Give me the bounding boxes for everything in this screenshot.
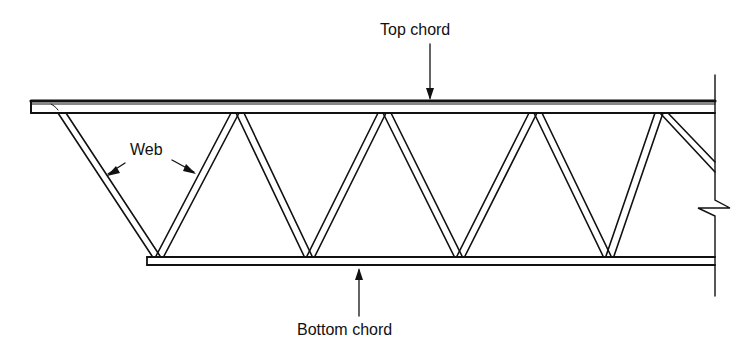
web-members — [58, 113, 715, 256]
truss-diagram — [0, 0, 750, 356]
top-chord — [31, 101, 715, 113]
top-chord-label: Top chord — [380, 22, 450, 38]
web-right-arrowhead-icon — [183, 164, 196, 174]
web-label: Web — [130, 142, 163, 158]
bottom-chord-arrowhead-icon — [355, 268, 363, 280]
leader-arrows — [108, 44, 430, 316]
wall-support-line — [698, 75, 730, 296]
bottom-chord-label: Bottom chord — [297, 322, 392, 338]
bottom-chord — [147, 257, 715, 265]
top-chord-arrowhead-icon — [426, 88, 434, 100]
